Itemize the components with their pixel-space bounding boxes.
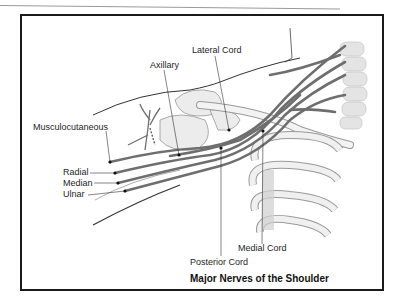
label-musculocutaneous: Musculocutaneous (33, 122, 108, 132)
figure-title: Major Nerves of the Shoulder (190, 273, 329, 284)
label-axillary: Axillary (150, 60, 179, 70)
label-ulnar: Ulnar (63, 189, 85, 199)
neck-outline (285, 28, 292, 62)
musculocutaneous-branches (128, 104, 160, 150)
label-median: Median (63, 178, 93, 188)
label-medial-cord: Medial Cord (238, 243, 287, 253)
label-lateral-cord: Lateral Cord (192, 45, 242, 55)
label-radial: Radial (63, 167, 89, 177)
spine (340, 42, 367, 129)
label-posterior-cord: Posterior Cord (190, 257, 248, 267)
